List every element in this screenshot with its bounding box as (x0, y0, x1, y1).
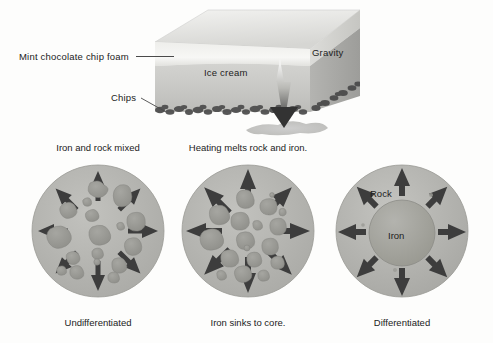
chips-leader-line (140, 96, 170, 116)
label-foam: Mint chocolate chip foam (19, 52, 129, 62)
label-ice-cream: Ice cream (204, 68, 248, 78)
panel-1-caption: Undifferentiated (18, 318, 178, 328)
panel-3-caption: Differentiated (322, 318, 482, 328)
iron-label: Iron (388, 230, 404, 241)
rock-label: Rock (370, 188, 392, 199)
panel-2-title: Heating melts rock and iron. (168, 143, 328, 153)
panel-differentiated: Rock Iron Differentiated (322, 143, 482, 339)
ice-cream-block (150, 4, 360, 134)
label-chips: Chips (111, 93, 136, 103)
foam-leader-line (136, 56, 174, 57)
label-gravity: Gravity (312, 48, 344, 58)
undifferentiated-diagram (28, 161, 168, 301)
panel-undifferentiated: Iron and rock mixed (18, 143, 178, 339)
panel-heating: Heating melts rock and iron. (168, 143, 328, 339)
differentiated-diagram: Rock Iron (332, 161, 472, 301)
panel-2-caption: Iron sinks to core. (168, 318, 328, 328)
panel-1-title: Iron and rock mixed (18, 143, 178, 153)
differentiation-figure: Mint chocolate chip foam Ice cream Chips… (0, 0, 493, 343)
heating-diagram (178, 161, 318, 301)
